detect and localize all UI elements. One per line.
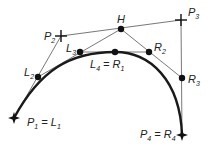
label-p2: P2 bbox=[44, 30, 55, 44]
label-r3: R3 bbox=[188, 73, 200, 87]
point-r2 bbox=[146, 49, 152, 55]
label-l4-r1: L4 = R1 bbox=[90, 58, 125, 72]
point-l3 bbox=[77, 49, 83, 55]
point-l2 bbox=[35, 74, 41, 80]
label-p3: P3 bbox=[188, 6, 199, 20]
point-r3 bbox=[179, 75, 185, 81]
label-p4: P4 = R4 bbox=[140, 128, 176, 142]
label-l3: L3 bbox=[66, 42, 76, 56]
point-p1-star bbox=[8, 112, 20, 124]
bezier-diagram: P1 = L1 P2 P3 P4 = R4 L2 L3 H R2 R3 L4 =… bbox=[0, 0, 212, 151]
label-l2: L2 bbox=[24, 66, 34, 80]
label-r2: R2 bbox=[154, 41, 166, 55]
label-h: H bbox=[117, 13, 125, 25]
label-p1: P1 = L1 bbox=[27, 116, 61, 130]
point-l4-r1 bbox=[112, 49, 118, 55]
point-h bbox=[118, 26, 124, 32]
point-p4-star bbox=[176, 129, 188, 141]
